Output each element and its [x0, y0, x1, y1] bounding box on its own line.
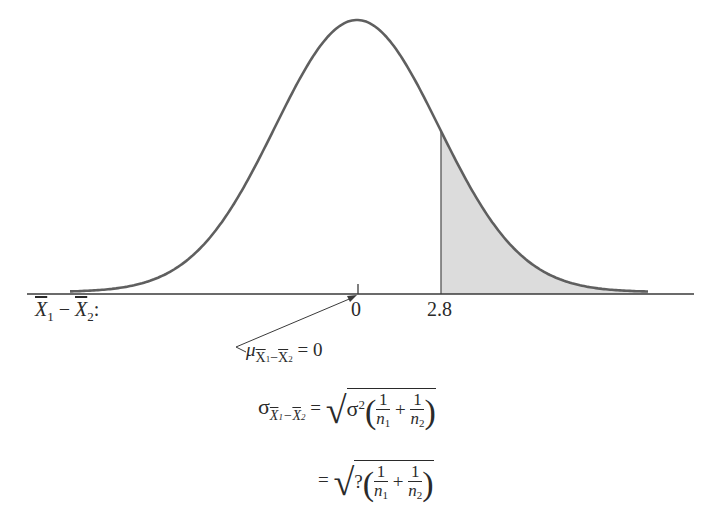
mu-symbol: μ: [246, 339, 256, 360]
sqrt-expression-2: √ ?(1n1 + 1n2): [333, 460, 433, 504]
unknown-variance: ?: [354, 471, 362, 492]
shaded-right-tail: [441, 131, 648, 294]
mean-label: μX1−X2 = 0: [246, 339, 322, 366]
tick-label-cutoff: 2.8: [427, 298, 452, 321]
sd-formula-line-1: σX1−X2 = √ σ2(1n1 + 1n2): [258, 388, 436, 432]
tick-label-zero: 0: [351, 298, 361, 321]
sd-formula-line-2: = √ ?(1n1 + 1n2): [318, 460, 434, 504]
sqrt-expression-1: √ σ2(1n1 + 1n2): [326, 388, 436, 432]
mean-arrow-tail: [236, 347, 246, 352]
bell-curve: [70, 20, 648, 292]
axis-variable-label: n X1 − X2:: [35, 298, 99, 325]
mean-equals: = 0: [297, 339, 322, 360]
sigma-symbol: σ: [258, 394, 270, 419]
normal-curve-diagram: [0, 0, 704, 529]
